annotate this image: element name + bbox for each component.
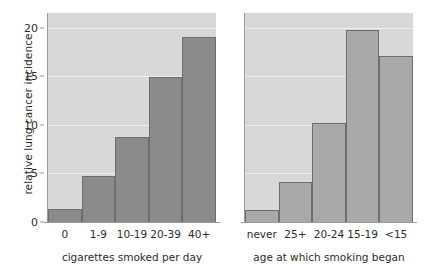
bar: [379, 56, 413, 222]
x-axis-line-left: [44, 222, 220, 223]
x-axis-line-right: [241, 222, 417, 223]
x-axis-ticks-cigarettes: 01-910-1920-3940+: [48, 226, 216, 244]
x-tick-label: never: [245, 226, 279, 244]
y-tick-label: 15: [24, 70, 38, 83]
bar: [279, 182, 313, 222]
y-tick-label: 5: [31, 167, 38, 180]
plot-panel-cigarettes: [48, 13, 216, 222]
bar: [115, 137, 149, 222]
bar: [149, 77, 183, 222]
bar-series-age: [245, 13, 413, 222]
bar: [346, 30, 380, 222]
bar: [182, 37, 216, 222]
x-tick-label: 0: [48, 226, 82, 244]
y-tick-mark: [40, 76, 44, 77]
x-tick-label: 1-9: [82, 226, 116, 244]
y-tick-mark: [40, 173, 44, 174]
y-tick-label: 20: [24, 21, 38, 34]
bar-chart: relative lung cancer incidence 05101520 …: [0, 0, 428, 278]
x-axis-ticks-age: never25+20-2415-19<15: [245, 226, 413, 244]
x-tick-label: 25+: [279, 226, 313, 244]
y-tick-mark: [40, 124, 44, 125]
x-tick-label: 10-19: [115, 226, 149, 244]
y-tick-label: 10: [24, 118, 38, 131]
y-axis-line-right: [244, 13, 245, 223]
y-tick-label: 0: [31, 216, 38, 229]
bar: [48, 209, 82, 222]
x-tick-label: <15: [379, 226, 413, 244]
bar: [245, 210, 279, 222]
y-tick-mark: [40, 27, 44, 28]
x-tick-label: 15-19: [346, 226, 380, 244]
x-tick-label: 40+: [182, 226, 216, 244]
x-axis-title-age: age at which smoking began: [245, 251, 413, 263]
x-axis-title-cigarettes: cigarettes smoked per day: [48, 251, 216, 263]
y-axis-line-left: [47, 13, 48, 223]
x-tick-label: 20-24: [312, 226, 346, 244]
bar-series-cigarettes: [48, 13, 216, 222]
y-axis-ticks: 05101520: [0, 0, 44, 278]
x-tick-label: 20-39: [149, 226, 183, 244]
bar: [312, 123, 346, 222]
plot-panel-age: [245, 13, 413, 222]
bar: [82, 176, 116, 222]
